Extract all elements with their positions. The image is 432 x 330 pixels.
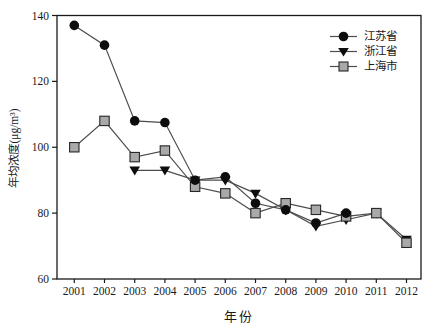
data-marker-jiangsu xyxy=(341,208,351,218)
x-axis-tick-label: 2009 xyxy=(304,285,327,297)
data-marker-jiangsu xyxy=(281,205,291,215)
x-axis-tick-label: 2004 xyxy=(153,285,176,297)
data-marker-zhejiang xyxy=(129,167,140,176)
y-axis-tick-label: 100 xyxy=(32,141,50,153)
y-axis-tick-label: 80 xyxy=(38,207,50,219)
legend-label-shanghai: 上海市 xyxy=(364,59,397,74)
data-marker-jiangsu xyxy=(221,172,231,182)
data-marker-shanghai xyxy=(221,189,230,198)
data-marker-jiangsu xyxy=(130,116,140,126)
data-marker-zhejiang xyxy=(250,190,261,199)
line-chart: 6080100120140200120022003200420052006200… xyxy=(0,0,432,330)
legend-item-zhejiang: 浙江省 xyxy=(330,44,397,59)
data-marker-shanghai xyxy=(311,205,320,214)
x-axis-tick-label: 2012 xyxy=(395,285,418,297)
data-marker-shanghai xyxy=(70,143,79,152)
y-axis-tick-label: 120 xyxy=(32,75,50,87)
legend-item-jiangsu: 江苏省 xyxy=(330,29,397,44)
x-axis-tick-label: 2008 xyxy=(274,285,297,297)
triangle-marker-icon xyxy=(330,45,357,58)
y-axis-title: 年均浓度(μg/m³) xyxy=(5,42,21,254)
y-axis-tick-label: 60 xyxy=(38,273,50,285)
series-line-zhejiang xyxy=(135,170,407,239)
series-line-jiangsu xyxy=(74,25,346,223)
y-axis-tick-label: 140 xyxy=(32,10,50,22)
x-axis-tick-label: 2003 xyxy=(123,285,146,297)
legend-label-jiangsu: 江苏省 xyxy=(364,29,397,44)
data-marker-shanghai xyxy=(402,238,411,247)
data-marker-jiangsu xyxy=(311,218,321,228)
x-axis-tick-label: 2001 xyxy=(63,285,86,297)
data-marker-jiangsu xyxy=(160,118,170,128)
data-marker-jiangsu xyxy=(70,21,80,31)
data-marker-shanghai xyxy=(130,152,139,161)
series-line-shanghai xyxy=(74,121,406,243)
data-marker-shanghai xyxy=(372,208,381,217)
legend-label-zhejiang: 浙江省 xyxy=(364,44,397,59)
x-axis-tick-label: 2005 xyxy=(184,285,207,297)
data-marker-shanghai xyxy=(100,116,109,125)
data-marker-shanghai xyxy=(251,208,260,217)
data-marker-jiangsu xyxy=(100,40,110,50)
x-axis-tick-label: 2002 xyxy=(93,285,116,297)
legend-item-shanghai: 上海市 xyxy=(330,59,397,74)
data-marker-jiangsu xyxy=(251,198,261,208)
legend: 江苏省 浙江省 上海市 xyxy=(330,29,397,74)
x-axis-tick-label: 2007 xyxy=(244,285,267,297)
circle-marker-icon xyxy=(330,30,357,43)
x-axis-tick-label: 2010 xyxy=(335,285,358,297)
data-marker-jiangsu xyxy=(190,175,200,185)
x-axis-title: 年份 xyxy=(57,306,421,325)
square-marker-icon xyxy=(330,60,357,73)
data-marker-shanghai xyxy=(160,146,169,155)
x-axis-tick-label: 2011 xyxy=(365,285,388,297)
x-axis-tick-label: 2006 xyxy=(214,285,237,297)
